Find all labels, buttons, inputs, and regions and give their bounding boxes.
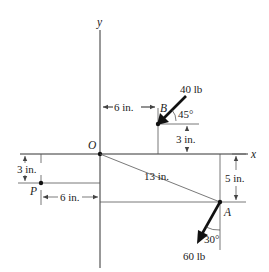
dimension-p-vertical: 3 in. (17, 163, 37, 175)
x-axis-label: x (250, 148, 257, 160)
angle-45-arc (172, 110, 176, 121)
point-p (39, 181, 43, 185)
force-diagram: y x O 6 in. 3 in. B 40 lb 45° 13 in. 5 i… (0, 0, 269, 272)
y-axis-label: y (96, 16, 103, 29)
point-p-construction (18, 154, 100, 205)
force-a-label: 60 lb (183, 250, 206, 262)
angle-b-label: 45° (178, 108, 193, 120)
force-b-label: 40 lb (180, 83, 203, 95)
origin-label: O (88, 139, 97, 151)
point-a-label: A (223, 206, 232, 218)
dimension-b-vertical: 3 in. (176, 133, 196, 145)
angle-a-label: 30° (204, 233, 219, 245)
dimension-oa-length: 13 in. (144, 170, 169, 182)
dimension-a-vertical: 5 in. (225, 172, 245, 184)
dimension-ob-horizontal: 6 in. (114, 101, 134, 113)
point-b-label: B (160, 102, 167, 114)
point-b (156, 122, 160, 126)
point-a (218, 200, 222, 204)
point-a-construction (100, 154, 246, 250)
dimension-p-horizontal: 6 in. (60, 191, 80, 203)
angle-30-arc (206, 227, 220, 230)
point-p-label: P (29, 185, 37, 197)
